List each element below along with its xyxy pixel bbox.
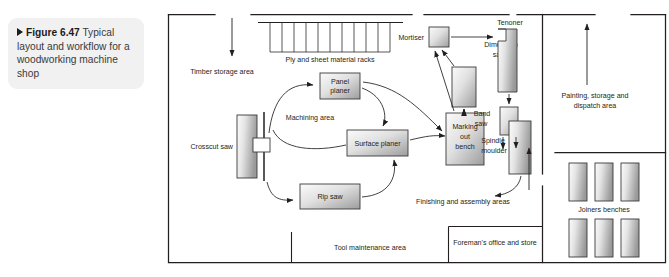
marking-out-bench-line2: out (460, 133, 470, 141)
timber-storage-area: Timber storage area (190, 18, 254, 76)
finishing-label: Finishing and assembly areas (416, 198, 510, 206)
joiners-bench (595, 163, 613, 201)
figure-number: Figure 6.47 (26, 27, 80, 38)
figure-caption-card: Figure 6.47 Typical layout and workflow … (8, 18, 144, 89)
surface-planer-label: Surface planer (354, 140, 401, 148)
panel-planer: Panel planer (320, 73, 360, 99)
marking-out-bench-line3: bench (455, 143, 474, 151)
factory-layout-diagram: Ply and sheet material racks Timber stor… (165, 0, 669, 277)
joiners-bench (621, 163, 639, 201)
spindle-moulder-line1: Spindle (481, 137, 505, 145)
joiners-benches-label: Joiners benches (578, 206, 630, 214)
triangle-right-icon (17, 28, 23, 36)
joiners-bench (595, 219, 613, 257)
ply-racks-label: Ply and sheet material racks (285, 56, 375, 64)
panel-planer-label-line2: planer (330, 87, 350, 95)
machining-area-label: Machining area (286, 114, 335, 122)
painting-label-line1: Painting, storage and (561, 92, 628, 100)
panel-planer-label-line1: Panel (331, 78, 350, 86)
band-saw-line1: Band (474, 110, 491, 118)
tool-maintenance-label: Tool maintenance area (334, 244, 406, 252)
rip-saw: Rip saw (300, 184, 360, 209)
mortiser-label: Mortiser (398, 34, 424, 42)
joiners-bench (621, 219, 639, 257)
crosscut-saw: Crosscut saw (190, 112, 270, 181)
surface-planer: Surface planer (347, 130, 408, 156)
spindle-moulder-line2: moulder (481, 147, 507, 155)
tenoner: Tenoner (497, 19, 523, 92)
joiners-benches: Joiners benches (569, 163, 639, 257)
band-saw-line2: saw (475, 120, 488, 128)
foremans-office-label: Foreman's office and store (453, 239, 537, 247)
crosscut-saw-label: Crosscut saw (190, 143, 233, 151)
painting-label-line2: dispatch area (574, 102, 617, 110)
painting-storage-dispatch-area: Painting, storage and dispatch area (561, 24, 628, 110)
joiners-bench (569, 163, 587, 201)
rip-saw-label: Rip saw (317, 193, 343, 201)
mortiser: Mortiser (398, 27, 449, 47)
figure-root: Figure 6.47 Typical layout and workflow … (0, 0, 669, 277)
tenoner-label: Tenoner (497, 19, 523, 27)
ply-and-sheet-material-racks: Ply and sheet material racks (258, 23, 403, 65)
timber-storage-label: Timber storage area (190, 68, 254, 76)
joiners-bench (569, 219, 587, 257)
figure-caption-text: Figure 6.47 Typical layout and workflow … (17, 26, 135, 80)
